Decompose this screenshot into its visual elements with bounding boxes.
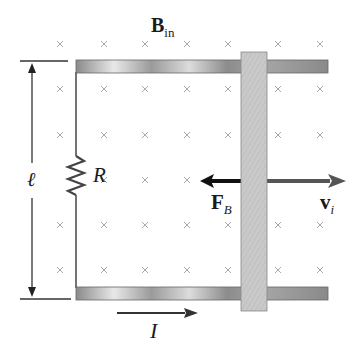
current-arrow — [117, 308, 198, 318]
resistor-circuit — [68, 72, 84, 288]
length-label: ℓ — [27, 168, 35, 191]
magnetic-field-marks — [57, 41, 323, 273]
velocity-arrow — [265, 174, 346, 188]
velocity-label: vi — [320, 190, 334, 215]
current-label: I — [150, 318, 157, 344]
force-arrow — [200, 174, 244, 188]
resistor-label: R — [93, 163, 106, 188]
bottom-rail — [76, 287, 328, 300]
top-rail — [76, 60, 328, 73]
field-label: Bin — [151, 14, 174, 37]
diagram-canvas: Bin ℓ R FB vi I — [0, 0, 360, 359]
force-label: FB — [211, 190, 232, 215]
sliding-bar — [241, 52, 267, 311]
